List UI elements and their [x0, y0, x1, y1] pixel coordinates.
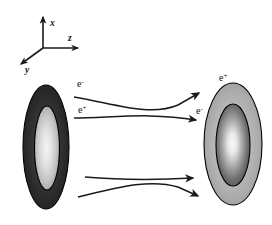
left-bunch-core-ellipse [35, 106, 60, 190]
label-left-electron: e- [77, 78, 84, 90]
left-bunch [23, 85, 69, 209]
right-bunch [204, 83, 262, 205]
lower-trajectory-1 [85, 177, 193, 179]
axis-x-label: x [49, 18, 55, 28]
label-left-positron: e+ [78, 104, 86, 116]
label-right-positron: e+ [219, 72, 227, 84]
axis-z-label: z [67, 33, 72, 43]
coordinate-axes: x z y [21, 17, 78, 75]
right-bunch-core-ellipse [216, 104, 250, 186]
axis-y-label: y [24, 65, 30, 75]
trajectory-group [74, 93, 199, 197]
upper-trajectory-1 [74, 93, 199, 110]
axis-y-line [21, 48, 43, 64]
lower-trajectory-2 [78, 184, 198, 197]
bunch-crossing-diagram: x z y e- e+ [0, 0, 272, 225]
figure-root: x z y e- e+ [0, 0, 272, 225]
label-right-electron: e- [196, 105, 203, 117]
upper-trajectory-2 [74, 116, 196, 120]
